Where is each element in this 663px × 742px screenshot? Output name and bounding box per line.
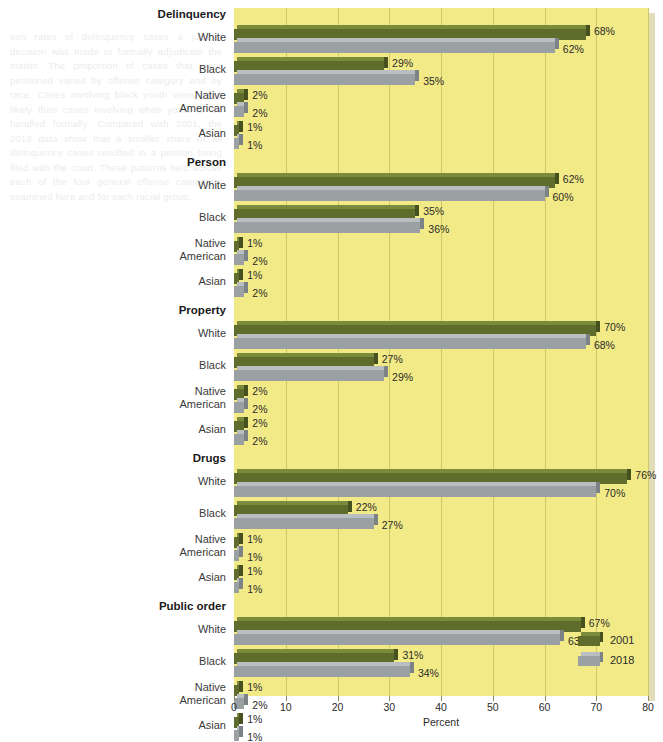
gridline	[441, 8, 442, 696]
bar-value-label: 35%	[423, 75, 444, 87]
x-tick-label: 0	[231, 701, 237, 713]
bar-2018-delinquency-black	[234, 74, 415, 85]
x-tick-label: 30	[383, 701, 395, 713]
category-label-asian: Asian	[198, 275, 226, 288]
category-label-line: Black	[199, 63, 226, 75]
bar-2018-drugs-black	[234, 518, 374, 529]
category-label-asian: Asian	[198, 719, 226, 732]
bar-value-label: 1%	[247, 565, 262, 577]
category-label-line: Native	[195, 533, 226, 545]
legend-label-2018: 2018	[610, 654, 634, 666]
category-label-line: Black	[199, 359, 226, 371]
gridline	[596, 8, 597, 696]
bar-value-label: 76%	[635, 469, 656, 481]
bar-value-label: 60%	[553, 191, 574, 203]
bar-2018-person-black	[234, 222, 420, 233]
gridline	[648, 8, 649, 696]
category-label-line: American	[180, 398, 226, 410]
bar-value-label: 22%	[356, 501, 377, 513]
group-label-property: Property	[179, 304, 226, 316]
category-label-line: American	[180, 102, 226, 114]
bar-2018-delinquency-native-american	[234, 106, 244, 117]
bar-2018-property-asian	[234, 434, 244, 445]
bar-value-label: 36%	[428, 223, 449, 235]
bar-value-label: 68%	[594, 339, 615, 351]
category-label-line: Native	[195, 385, 226, 397]
category-label-line: Asian	[198, 571, 226, 583]
bar-value-label: 2%	[252, 385, 267, 397]
bar-value-label: 29%	[392, 57, 413, 69]
bar-value-label: 2%	[252, 107, 267, 119]
gridline	[389, 8, 390, 696]
x-axis-title: Percent	[423, 716, 459, 728]
bar-value-label: 1%	[247, 121, 262, 133]
bar-value-label: 34%	[418, 667, 439, 679]
x-tick-label: 60	[539, 701, 551, 713]
category-label-asian: Asian	[198, 423, 226, 436]
category-label-black: Black	[199, 507, 226, 520]
group-label-person: Person	[187, 156, 226, 168]
bar-value-label: 2%	[252, 417, 267, 429]
x-tick-label: 80	[642, 701, 654, 713]
legend-swatch-2018-icon	[578, 656, 600, 666]
category-label-line: American	[180, 546, 226, 558]
category-label-line: Asian	[198, 127, 226, 139]
bar-2018-person-native-american	[234, 254, 244, 265]
bar-2018-delinquency-asian	[234, 138, 239, 149]
bar-value-label: 2%	[252, 699, 267, 711]
legend-swatch-2001-icon	[578, 636, 600, 646]
x-tick-label: 10	[280, 701, 292, 713]
bar-value-label: 1%	[247, 237, 262, 249]
x-tick-label: 70	[590, 701, 602, 713]
category-label-native-american: NativeAmerican	[180, 237, 226, 262]
gridline	[338, 8, 339, 696]
bar-value-label: 2%	[252, 287, 267, 299]
bar-2018-public-order-white	[234, 634, 560, 645]
category-label-line: Native	[195, 89, 226, 101]
category-label-white: White	[198, 327, 226, 340]
category-label-line: Asian	[198, 423, 226, 435]
category-label-line: White	[198, 31, 226, 43]
group-label-drugs: Drugs	[193, 452, 226, 464]
category-label-line: White	[198, 179, 226, 191]
group-label-delinquency: Delinquency	[158, 8, 226, 20]
bar-2018-property-white	[234, 338, 586, 349]
bar-2018-drugs-asian	[234, 582, 239, 593]
x-tick-label: 50	[487, 701, 499, 713]
category-label-asian: Asian	[198, 571, 226, 584]
bar-value-label: 1%	[247, 139, 262, 151]
x-tick-label: 20	[332, 701, 344, 713]
category-label-line: White	[198, 475, 226, 487]
grouped-horizontal-bar-chart: 68%62%29%35%2%2%1%1%62%60%35%36%1%2%1%2%…	[0, 0, 663, 742]
category-label-native-american: NativeAmerican	[180, 385, 226, 410]
bar-2018-property-black	[234, 370, 384, 381]
bar-2018-person-asian	[234, 286, 244, 297]
category-label-native-american: NativeAmerican	[180, 533, 226, 558]
category-label-line: Black	[199, 211, 226, 223]
bar-2018-property-native-american	[234, 402, 244, 413]
bar-value-label: 1%	[247, 731, 262, 742]
bar-value-label: 2%	[252, 255, 267, 267]
category-label-line: American	[180, 250, 226, 262]
group-label-public-order: Public order	[159, 600, 226, 612]
category-label-line: White	[198, 327, 226, 339]
bar-value-label: 1%	[247, 713, 262, 725]
bar-value-label: 27%	[382, 353, 403, 365]
category-label-white: White	[198, 623, 226, 636]
bar-value-label: 70%	[604, 487, 625, 499]
gridline	[545, 8, 546, 696]
bar-value-label: 1%	[247, 681, 262, 693]
category-label-asian: Asian	[198, 127, 226, 140]
bar-2018-drugs-white	[234, 486, 596, 497]
category-label-black: Black	[199, 655, 226, 668]
bar-2018-drugs-native-american	[234, 550, 239, 561]
x-tick-label: 40	[435, 701, 447, 713]
bar-value-label: 35%	[423, 205, 444, 217]
bar-value-label: 29%	[392, 371, 413, 383]
gridline	[286, 8, 287, 696]
category-label-line: Native	[195, 237, 226, 249]
category-label-black: Black	[199, 63, 226, 76]
bar-2018-public-order-black	[234, 666, 410, 677]
legend-label-2001: 2001	[610, 634, 634, 646]
category-label-black: Black	[199, 359, 226, 372]
